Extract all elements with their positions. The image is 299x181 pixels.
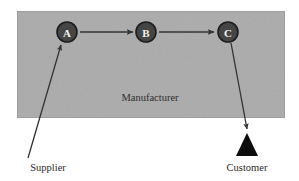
node-a[interactable]: A: [57, 22, 77, 42]
node-c-label: C: [224, 27, 232, 39]
node-b[interactable]: B: [136, 22, 156, 42]
supply-chain-diagram: Manufacturer A B C Supplier Custo: [0, 0, 299, 181]
supplier-label: Supplier: [30, 162, 66, 173]
customer-label: Customer: [227, 162, 268, 173]
customer-triangle-icon: [236, 133, 258, 156]
node-a-label: A: [63, 27, 71, 39]
diagram-canvas: Manufacturer A B C Supplier Custo: [0, 0, 299, 181]
node-c[interactable]: C: [218, 22, 238, 42]
node-b-label: B: [142, 27, 150, 39]
manufacturer-zone-label: Manufacturer: [121, 92, 179, 103]
